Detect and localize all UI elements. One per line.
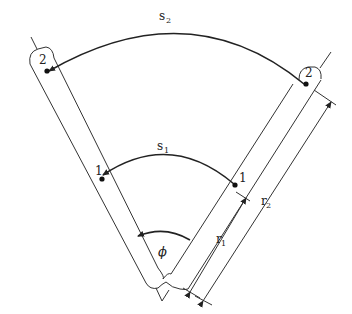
label-phi: ϕ	[158, 244, 167, 259]
hinge-pivot	[156, 288, 169, 301]
hinge-joint	[158, 268, 171, 279]
hinge-base	[146, 282, 188, 290]
label-s2: s 2	[159, 9, 171, 25]
svg-text:s: s	[159, 9, 165, 23]
left-point-1-label: 1	[95, 164, 103, 178]
label-r2: r 2	[261, 194, 271, 210]
left-point-2-label: 2	[39, 53, 47, 67]
label-s1: s 1	[157, 139, 169, 155]
right-point-1-label: 1	[239, 171, 247, 185]
right-arm	[171, 52, 331, 289]
svg-text:1: 1	[164, 146, 169, 155]
arc-s2	[49, 34, 304, 84]
svg-text:1: 1	[221, 239, 226, 248]
left-arm-outer-edge	[30, 64, 146, 283]
right-arm-left-edge	[171, 84, 293, 274]
left-axis-extension	[31, 37, 37, 49]
right-point-2-label: 2	[305, 66, 313, 80]
arc-phi	[138, 231, 190, 240]
right-axis-extension	[320, 52, 331, 68]
right-point-2	[303, 81, 308, 86]
arc-s1	[103, 155, 234, 184]
svg-text:2: 2	[266, 201, 271, 210]
svg-text:s: s	[157, 139, 163, 153]
right-arm-right-edge	[188, 80, 321, 289]
svg-text:2: 2	[166, 16, 171, 25]
hinge	[146, 268, 188, 301]
left-point-2	[44, 68, 49, 73]
r2-top-tick	[314, 90, 336, 105]
radius-dimensions	[183, 90, 336, 305]
left-arm	[30, 37, 158, 283]
left-arm-inner-edge	[54, 58, 158, 268]
linkage-diagram: 2 1 2 1 s 2 s 1 r 2 r 1 ϕ	[0, 0, 352, 314]
r1-top-tick	[236, 192, 250, 201]
right-point-1	[232, 182, 237, 187]
